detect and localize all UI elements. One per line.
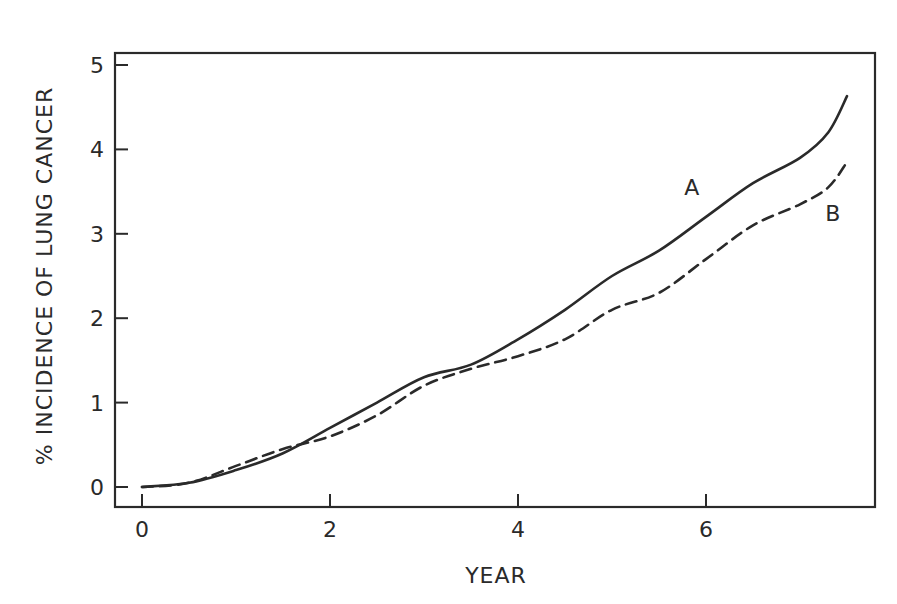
series-b-line (142, 162, 847, 487)
line-chart: 012345 0246 A B YEAR % INCIDENCE OF LUNG… (0, 0, 897, 604)
x-tick-label: 2 (323, 517, 337, 542)
series-b-label: B (825, 201, 840, 226)
y-tick-label: 1 (90, 391, 104, 416)
y-tick-label: 4 (90, 137, 104, 162)
x-tick-label: 4 (511, 517, 525, 542)
plot-frame (115, 53, 875, 507)
series-a-line (142, 96, 847, 487)
x-tick-label: 0 (135, 517, 149, 542)
x-axis-title: YEAR (464, 563, 527, 588)
y-axis-title: % INCIDENCE OF LUNG CANCER (32, 87, 57, 465)
y-tick-label: 2 (90, 306, 104, 331)
x-axis-ticks: 0246 (135, 494, 713, 542)
y-tick-label: 5 (90, 53, 104, 78)
y-tick-label: 3 (90, 222, 104, 247)
y-axis-ticks: 012345 (90, 53, 128, 500)
x-tick-label: 6 (699, 517, 713, 542)
series-a-label: A (684, 175, 699, 200)
y-tick-label: 0 (90, 475, 104, 500)
